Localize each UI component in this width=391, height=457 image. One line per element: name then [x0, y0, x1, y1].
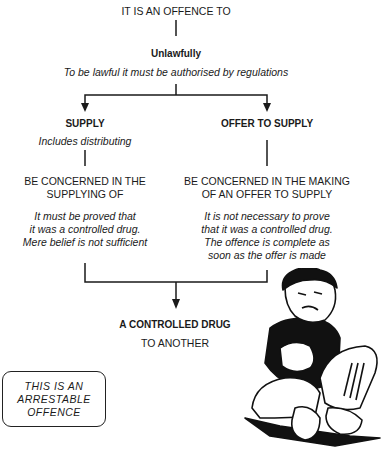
supply-heading: SUPPLY: [35, 117, 135, 130]
supply-concerned-line: SUPPLYING OF: [5, 188, 165, 201]
unlawfully-note: To be lawful it must be authorised by re…: [0, 66, 352, 79]
result-heading: A CONTROLLED DRUG: [100, 318, 250, 331]
offer-detail-line: It is not necessary to prove: [177, 210, 357, 223]
supply-detail: It must be proved that it was a controll…: [5, 210, 165, 249]
supply-concerned: BE CONCERNED IN THE SUPPLYING OF: [5, 175, 165, 201]
offer-concerned-line: OF AN OFFER TO SUPPLY: [177, 188, 357, 201]
box-line: OFFENCE: [27, 406, 81, 419]
box-line: ARRESTABLE: [17, 393, 91, 406]
supply-detail-line: Mere belief is not sufficient: [5, 236, 165, 249]
offer-detail-line: that it was a controlled drug.: [177, 223, 357, 236]
offer-concerned: BE CONCERNED IN THE MAKING OF AN OFFER T…: [177, 175, 357, 201]
shoe-left-shape: [292, 407, 320, 440]
supply-note: Includes distributing: [5, 135, 165, 148]
offer-heading: OFFER TO SUPPLY: [192, 117, 342, 130]
arrestable-offence-box: THIS IS AN ARRESTABLE OFFENCE: [2, 371, 106, 427]
unlawfully-heading: Unlawfully: [0, 47, 352, 60]
cartoon-boy-illustration: [240, 268, 390, 453]
title: IT IS AN OFFENCE TO: [0, 5, 352, 18]
arm-shape: [280, 342, 314, 371]
arrowhead-result: [172, 299, 180, 309]
offer-concerned-line: BE CONCERNED IN THE MAKING: [177, 175, 357, 188]
arrowhead-offer: [263, 103, 271, 112]
offer-detail-line: soon as the offer is made: [177, 249, 357, 262]
arrowhead-supply: [81, 103, 89, 112]
result-sub: TO ANOTHER: [100, 337, 250, 350]
connector-split-branches: [85, 95, 267, 110]
offer-detail: It is not necessary to prove that it was…: [177, 210, 357, 262]
shoe-right-shape: [326, 408, 362, 434]
box-line: THIS IS AN: [25, 380, 84, 393]
supply-concerned-line: BE CONCERNED IN THE: [5, 175, 165, 188]
supply-detail-line: It must be proved that: [5, 210, 165, 223]
offer-detail-line: The offence is complete as: [177, 236, 357, 249]
supply-detail-line: it was a controlled drug.: [5, 223, 165, 236]
